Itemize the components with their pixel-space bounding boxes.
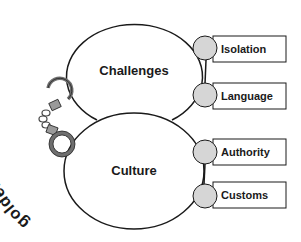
node-authority: Authority: [193, 139, 286, 165]
node-isolation: Isolation: [193, 36, 286, 62]
node-label-language: Language: [221, 90, 273, 102]
culture-label: Culture: [111, 163, 157, 178]
curved-label-text: golden handcuffs: [0, 85, 32, 233]
handcuffs-icon: [39, 78, 75, 157]
node-circle: [193, 36, 217, 60]
node-circle: [193, 83, 217, 107]
golden-handcuffs-curved-label: golden handcuffs: [0, 85, 32, 233]
diagram-canvas: Isolation Language Authority Customs Cha…: [0, 0, 301, 242]
node-circle: [193, 184, 217, 208]
node-label-authority: Authority: [221, 146, 271, 158]
node-circle: [193, 140, 217, 164]
node-customs: Customs: [193, 182, 286, 208]
challenges-label: Challenges: [99, 63, 168, 78]
node-label-isolation: Isolation: [221, 43, 267, 55]
node-language: Language: [193, 83, 286, 109]
connector-line: [205, 60, 206, 84]
connector-line: [204, 164, 205, 184]
node-label-customs: Customs: [221, 189, 268, 201]
